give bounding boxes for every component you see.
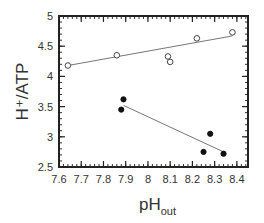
y-tick-label: 4.5 xyxy=(38,40,53,52)
fit-line xyxy=(68,36,233,66)
open-circle-marker xyxy=(165,54,171,60)
y-tick-label: 2.5 xyxy=(38,161,53,173)
x-tick-label: 8.4 xyxy=(229,173,244,185)
fit-line xyxy=(123,105,223,152)
filled-circle-marker xyxy=(208,131,213,136)
x-tick-label: 8 xyxy=(145,173,151,185)
x-tick-label: 7.6 xyxy=(51,173,66,185)
open-circle-marker xyxy=(114,52,120,58)
y-tick-label: 5 xyxy=(47,10,53,22)
x-tick-label: 8.2 xyxy=(185,173,200,185)
filled-circle-marker xyxy=(121,97,126,102)
filled-circle-marker xyxy=(119,107,124,112)
open-circle-marker xyxy=(65,63,71,69)
x-tick-label: 8.1 xyxy=(163,173,178,185)
filled-circle-marker xyxy=(221,151,226,156)
open-circle-marker xyxy=(194,36,200,42)
x-tick-label: 7.7 xyxy=(74,173,89,185)
y-tick-label: 3 xyxy=(47,131,53,143)
open-circle-marker xyxy=(167,59,173,65)
x-axis-label: pHout xyxy=(139,195,176,217)
x-tick-label: 7.9 xyxy=(118,173,133,185)
y-tick-label: 4 xyxy=(47,70,53,82)
filled-circle-marker xyxy=(201,149,206,154)
x-tick-label: 7.8 xyxy=(96,173,111,185)
scatter-chart: 7.67.77.87.988.18.28.38.4 2.533.544.55 H… xyxy=(0,0,264,223)
y-tick-labels: 2.533.544.55 xyxy=(38,10,53,173)
x-tick-label: 8.3 xyxy=(207,173,222,185)
y-axis-label: H⁺/ATP xyxy=(13,63,32,121)
data-points xyxy=(65,30,235,157)
open-circle-marker xyxy=(230,30,236,36)
x-tick-labels: 7.67.77.87.988.18.28.38.4 xyxy=(51,173,244,185)
y-tick-label: 3.5 xyxy=(38,101,53,113)
